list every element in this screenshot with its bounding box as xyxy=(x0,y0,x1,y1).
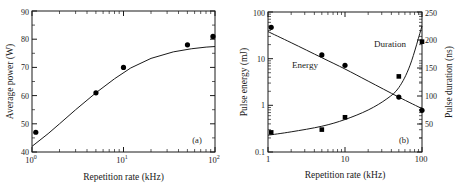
x-tick-mantissa: 10 xyxy=(25,155,34,165)
y-tick-label-left: 1 xyxy=(261,101,265,110)
panel-b: 0.1 1 10 100 50 100 150 200 250 1 10 100… xyxy=(234,0,468,187)
x-axis-minor-ticks-a xyxy=(60,11,211,152)
fit-curve-a xyxy=(32,47,215,147)
data-point-marker xyxy=(269,130,274,135)
panel-b-svg: 0.1 1 10 100 50 100 150 200 250 1 10 100… xyxy=(234,0,468,187)
plot-frame-a xyxy=(32,11,215,152)
y-tick-label: 50 xyxy=(21,120,29,129)
x-tick-label: 1 xyxy=(266,154,270,164)
y-tick-label-right: 150 xyxy=(425,64,437,73)
panel-a: 40 50 60 70 80 90 100 101 102 Repetition… xyxy=(0,0,234,187)
y-axis-minor-ticks-a xyxy=(32,25,215,138)
y-tick-label-right: 100 xyxy=(425,92,437,101)
x-axis-title-b: Repetition rate (kHz) xyxy=(305,170,386,181)
panel-label-b: (b) xyxy=(399,135,409,145)
y-axis-tick-labels-b-left: 0.1 1 10 100 xyxy=(253,9,265,158)
svg-text:100: 100 xyxy=(25,154,37,165)
x-tick-mantissa: 10 xyxy=(116,155,125,165)
y-tick-label-left: 100 xyxy=(253,9,265,18)
data-point-marker xyxy=(419,108,424,113)
y-axis-tick-labels-b-right: 50 100 150 200 250 xyxy=(425,9,437,130)
panel-label-a: (a) xyxy=(192,135,202,145)
y-axis-title-b-right: Pulse duration (ns) xyxy=(444,46,455,118)
figure-container: 40 50 60 70 80 90 100 101 102 Repetition… xyxy=(0,0,468,187)
data-point-marker xyxy=(185,42,190,47)
data-point-marker xyxy=(33,130,38,135)
y-tick-label-right: 50 xyxy=(425,120,433,129)
y-tick-label: 90 xyxy=(21,8,29,17)
x-axis-tick-labels-b: 1 10 100 xyxy=(266,154,428,164)
data-point-marker xyxy=(210,34,215,39)
data-point-marker xyxy=(269,25,274,30)
x-axis-title-a: Repetition rate (kHz) xyxy=(83,172,164,183)
y-tick-label-right: 250 xyxy=(425,9,437,18)
data-point-marker xyxy=(397,74,402,79)
svg-text:102: 102 xyxy=(208,154,220,165)
y-axis-ticks-a xyxy=(32,11,215,152)
data-point-marker xyxy=(320,127,325,132)
x-tick-exponent: 0 xyxy=(34,154,37,160)
y-axis-tick-labels-a: 40 50 60 70 80 90 xyxy=(21,8,29,158)
x-axis-minor-ticks-b xyxy=(291,12,418,152)
data-point-marker xyxy=(420,39,425,44)
y-tick-label-left: 0.1 xyxy=(255,148,265,157)
data-point-marker xyxy=(319,52,324,57)
data-point-marker xyxy=(121,65,126,70)
y-axis-title-a: Average power (W) xyxy=(5,44,16,119)
y-tick-label: 60 xyxy=(21,92,29,101)
x-tick-exponent: 1 xyxy=(125,154,128,160)
x-tick-exponent: 2 xyxy=(217,154,220,160)
y-tick-label: 70 xyxy=(21,63,29,72)
x-tick-label: 10 xyxy=(341,154,350,164)
x-axis-ticks-a xyxy=(32,11,215,152)
data-point-marker xyxy=(93,90,98,95)
panel-a-svg: 40 50 60 70 80 90 100 101 102 Repetition… xyxy=(0,0,234,187)
x-axis-tick-labels-a: 100 101 102 xyxy=(25,154,220,165)
y-tick-label-left: 10 xyxy=(257,55,265,64)
svg-text:101: 101 xyxy=(116,154,128,165)
y-tick-label: 80 xyxy=(21,35,29,44)
data-point-marker xyxy=(342,63,347,68)
plot-frame-b xyxy=(268,12,422,152)
x-tick-mantissa: 10 xyxy=(208,155,217,165)
data-point-marker xyxy=(396,95,401,100)
annotation-duration: Duration xyxy=(374,39,406,49)
x-tick-label: 100 xyxy=(415,154,428,164)
y-tick-label-right: 200 xyxy=(425,36,437,45)
data-point-marker xyxy=(343,115,348,120)
annotation-energy: Energy xyxy=(292,60,318,70)
y-axis-title-b-left: Pulse energy (mJ) xyxy=(239,48,250,116)
x-axis-ticks-b xyxy=(268,12,422,152)
data-points-duration xyxy=(269,39,424,134)
